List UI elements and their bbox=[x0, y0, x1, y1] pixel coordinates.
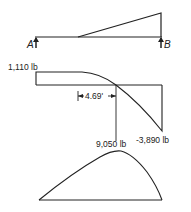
shear-min-label: -3,890 lb bbox=[136, 135, 169, 145]
moment-diagram: 9,050 lb bbox=[39, 139, 162, 200]
load-diagram: A B bbox=[26, 13, 171, 50]
support-a-arrow-icon bbox=[33, 37, 39, 48]
support-b-label: B bbox=[164, 39, 171, 50]
moment-curve bbox=[39, 151, 162, 200]
shear-max-label: 1,110 lb bbox=[8, 62, 38, 72]
support-a-label: A bbox=[26, 39, 34, 50]
zero-distance-label: 4.69' bbox=[85, 91, 104, 101]
triangular-load bbox=[78, 13, 161, 37]
shear-diagram: 1,110 lb 4.69' -3,890 lb bbox=[8, 62, 169, 145]
beam-diagrams: A B 1,110 lb 4.69' -3,890 lb 9,050 lb bbox=[0, 0, 191, 212]
moment-max-label: 9,050 lb bbox=[96, 139, 127, 149]
shear-curve bbox=[36, 72, 162, 131]
